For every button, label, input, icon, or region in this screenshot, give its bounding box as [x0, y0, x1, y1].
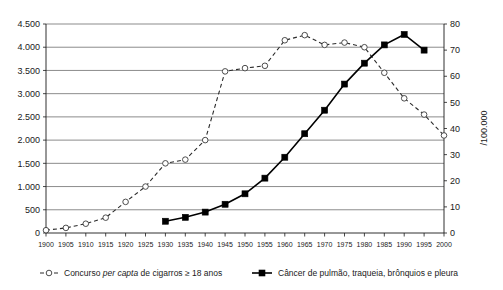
data-point-marker-circle	[342, 40, 348, 46]
y-axis-left-tick-label: 2.000	[17, 135, 40, 145]
y-axis-left-tick-label: 2.500	[17, 112, 40, 122]
y-axis-right-tick-label: 30	[450, 150, 460, 160]
data-point-marker-square	[202, 209, 208, 215]
data-point-marker-square	[322, 107, 328, 113]
data-point-marker-square	[222, 201, 228, 207]
data-point-marker-circle	[282, 37, 288, 43]
x-axis-tick-label: 1920	[118, 241, 134, 248]
x-axis-tick-label: 2000	[436, 241, 452, 248]
x-axis-tick-label: 1910	[78, 241, 94, 248]
data-point-marker-circle	[441, 133, 447, 139]
y-axis-right-tick-label: 40	[450, 124, 460, 134]
y-axis-right-tick-label: 60	[450, 71, 460, 81]
series-line-0	[46, 35, 444, 230]
y-axis-right-tick-label: 80	[450, 19, 460, 29]
data-point-marker-circle	[262, 63, 268, 69]
y-axis-left-tick-label: 0	[35, 228, 40, 238]
grid-lines	[46, 24, 444, 210]
data-point-marker-square	[182, 214, 188, 220]
x-axis-tick-label: 1900	[38, 241, 54, 248]
x-axis-ticks: 1900190519101915192019251930193519401945…	[38, 233, 452, 248]
x-axis-tick-label: 1930	[158, 241, 174, 248]
y-axis-right-ticks: 01020304050607080	[444, 19, 460, 238]
x-axis-tick-label: 1990	[396, 241, 412, 248]
data-point-marker-circle	[401, 96, 407, 102]
y-axis-left-tick-label: 3.000	[17, 89, 40, 99]
x-axis-tick-label: 1915	[98, 241, 114, 248]
legend-marker-filled-square	[259, 270, 265, 276]
legend-label-cigarettes: Concurso per capta de cigarros ≥ 18 anos	[64, 268, 222, 278]
y-axis-right-tick-label: 20	[450, 176, 460, 186]
data-point-marker-square	[242, 191, 248, 197]
y-axis-right-tick-label: 10	[450, 202, 460, 212]
data-point-marker-square	[381, 42, 387, 48]
y-axis-left-tick-label: 1.000	[17, 182, 40, 192]
x-axis-tick-label: 1935	[178, 241, 194, 248]
x-axis-tick-label: 1925	[138, 241, 154, 248]
data-point-marker-square	[361, 60, 367, 66]
data-point-marker-circle	[421, 112, 427, 118]
x-axis-tick-label: 1945	[217, 241, 233, 248]
chart-figure: 05001.0001.5002.0002.5003.0003.5004.0004…	[0, 0, 503, 290]
data-point-marker-circle	[103, 215, 109, 221]
data-point-marker-circle	[83, 221, 89, 227]
y-axis-right-tick-label: 50	[450, 98, 460, 108]
data-point-marker-square	[282, 154, 288, 160]
data-point-marker-circle	[63, 225, 69, 231]
axis-lines	[46, 24, 444, 233]
x-axis-tick-label: 1940	[197, 241, 213, 248]
data-point-marker-circle	[222, 69, 228, 75]
x-axis-tick-label: 1985	[377, 241, 393, 248]
y-axis-right-title-label: /100.000	[479, 110, 489, 145]
data-point-marker-circle	[43, 227, 49, 233]
y-axis-right-title: /100.000	[479, 110, 489, 145]
data-point-marker-circle	[302, 32, 308, 38]
chart-canvas: 05001.0001.5002.0002.5003.0003.5004.0004…	[0, 0, 503, 290]
data-point-marker-square	[401, 31, 407, 37]
data-point-marker-circle	[183, 157, 189, 163]
data-point-marker-circle	[163, 161, 169, 167]
data-point-marker-circle	[362, 44, 368, 50]
x-axis-tick-label: 1965	[297, 241, 313, 248]
x-axis-tick-label: 1995	[416, 241, 432, 248]
x-axis-tick-label: 1970	[317, 241, 333, 248]
data-point-marker-circle	[123, 199, 129, 205]
data-point-marker-circle	[382, 70, 388, 76]
y-axis-left-tick-label: 4.000	[17, 42, 40, 52]
data-point-marker-circle	[322, 42, 328, 48]
x-axis-tick-label: 1905	[58, 241, 74, 248]
y-axis-left-tick-label: 4.500	[17, 19, 40, 29]
y-axis-left-tick-label: 500	[25, 205, 40, 215]
x-axis-tick-label: 1955	[257, 241, 273, 248]
data-point-marker-square	[162, 218, 168, 224]
x-axis-tick-label: 1975	[337, 241, 353, 248]
y-axis-left-tick-label: 3.500	[17, 66, 40, 76]
data-point-marker-circle	[143, 184, 149, 190]
data-point-marker-square	[421, 47, 427, 53]
data-point-marker-square	[262, 175, 268, 181]
data-point-marker-square	[342, 81, 348, 87]
legend-label-cancer: Câncer de pulmão, traqueia, brônquios e …	[278, 268, 458, 278]
series-line-1	[165, 34, 424, 221]
data-point-marker-circle	[202, 137, 208, 143]
x-axis-tick-label: 1980	[357, 241, 373, 248]
data-point-marker-square	[302, 131, 308, 137]
legend-marker-open-circle	[46, 270, 52, 276]
x-axis-tick-label: 1960	[277, 241, 293, 248]
y-axis-right-tick-label: 0	[450, 228, 455, 238]
x-axis-tick-label: 1950	[237, 241, 253, 248]
y-axis-right-tick-label: 70	[450, 45, 460, 55]
data-point-marker-circle	[242, 65, 248, 71]
chart-legend: Concurso per capta de cigarros ≥ 18 anos…	[40, 268, 458, 278]
y-axis-left-tick-label: 1.500	[17, 159, 40, 169]
data-series	[43, 31, 447, 233]
y-axis-left-ticks: 05001.0001.5002.0002.5003.0003.5004.0004…	[17, 19, 46, 238]
